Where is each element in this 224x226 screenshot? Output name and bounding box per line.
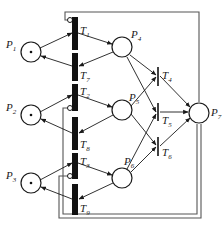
label-t9: T9: [80, 202, 90, 217]
label-p3: P3: [5, 169, 17, 184]
transition-t7: [72, 53, 78, 81]
place-p4: [112, 37, 132, 57]
label-t5: T5: [162, 114, 172, 129]
token-p2: [30, 114, 33, 117]
label-t6: T6: [162, 146, 172, 161]
transition-t2: [72, 84, 78, 111]
label-p4: P4: [130, 28, 142, 43]
token-p3: [30, 182, 33, 185]
inhibitor-circles: [68, 18, 73, 179]
label-p1: P1: [5, 38, 16, 53]
places: [21, 37, 209, 193]
label-t3: T3: [80, 155, 90, 170]
inhibitor-circle-t1: [68, 18, 73, 23]
label-p2: P2: [5, 101, 17, 116]
label-p7: P7: [210, 106, 222, 121]
place-p7: [189, 103, 209, 123]
place-p5: [112, 100, 132, 120]
label-t8: T8: [80, 138, 90, 153]
transition-t8: [72, 117, 78, 150]
inhibitor-circle-t3: [68, 174, 73, 179]
transitions-left: [72, 17, 78, 215]
label-t7: T7: [80, 69, 90, 84]
label-t4: T4: [162, 69, 172, 84]
label-t1: T1: [80, 24, 90, 39]
token-p1: [30, 51, 33, 54]
transition-t3: [72, 153, 78, 179]
transition-t9: [72, 184, 78, 215]
transition-t1: [72, 17, 78, 50]
petri-net-diagram: P1 P2 P3 P4 P5 P6 P7 T1 T7 T2 T8 T3 T9 T…: [0, 0, 224, 226]
place-p6: [112, 168, 132, 188]
inhibitor-circle-t2: [68, 106, 73, 111]
